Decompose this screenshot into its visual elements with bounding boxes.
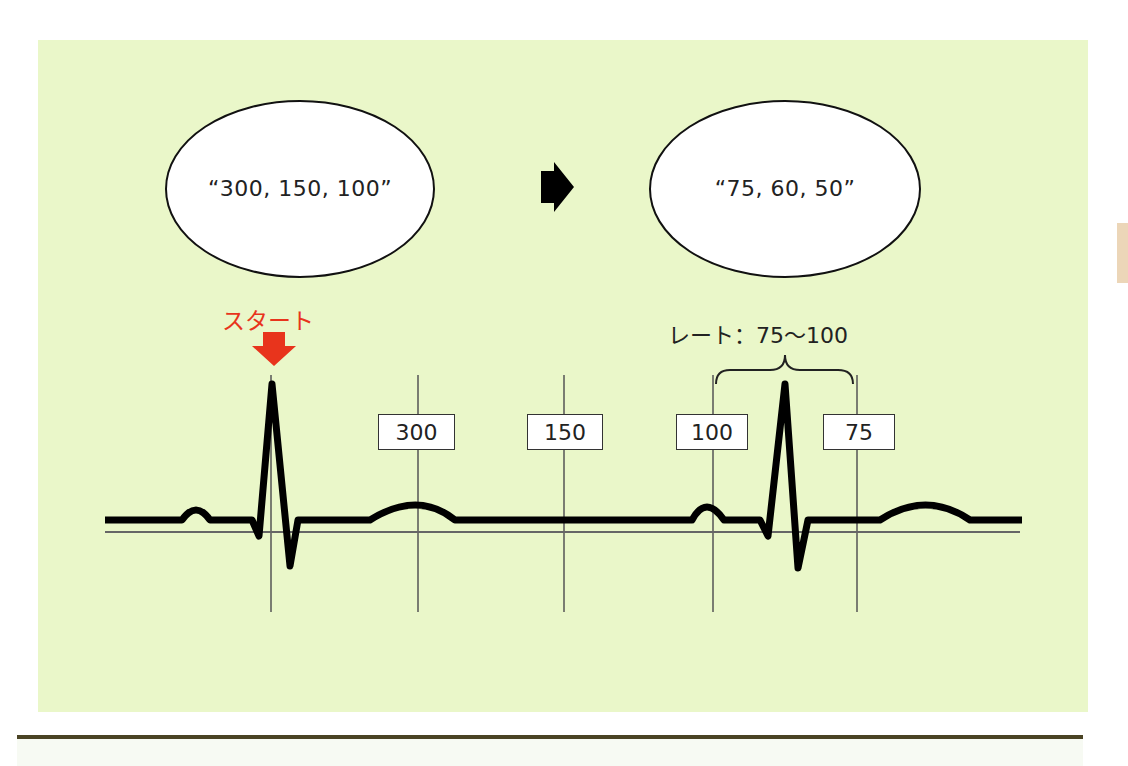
gridline-label-150: 150 — [527, 414, 603, 450]
lower-band — [17, 739, 1083, 766]
ecg-diagram — [0, 0, 1128, 766]
right-arrow-icon — [541, 162, 574, 212]
gridline-label-100: 100 — [676, 414, 748, 450]
rate-range-label: レート：75〜100 — [668, 317, 848, 349]
gridline-label-300: 300 — [378, 414, 455, 450]
vertical-gridlines — [271, 375, 857, 612]
gridline-label-75: 75 — [823, 414, 895, 450]
rate-range-brace — [716, 355, 853, 384]
start-label: スタート — [222, 302, 314, 336]
start-down-arrow-icon — [252, 332, 296, 366]
ellipse-right-text: “75, 60, 50” — [651, 176, 919, 201]
ellipse-left-text: “300, 150, 100” — [166, 176, 434, 201]
